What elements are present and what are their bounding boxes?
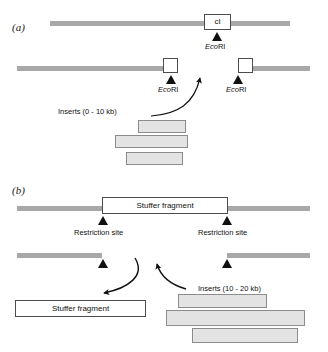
panel-b-insert-arrow bbox=[157, 264, 186, 289]
panel-b-stuffer-arrow bbox=[104, 258, 138, 293]
ecori-caret-3 bbox=[233, 75, 243, 84]
ecori-label-3: EcoRI bbox=[226, 86, 246, 94]
stuffer-fragment-label-bottom: Stuffer fragment bbox=[52, 305, 109, 313]
cut-end-box-right bbox=[238, 58, 253, 73]
ecori-caret-2 bbox=[166, 75, 176, 84]
panel-b-inserts-label: Inserts (10 - 20 kb) bbox=[198, 285, 261, 293]
restriction-site-caret-1 bbox=[98, 216, 108, 225]
panel-b-insert-1 bbox=[178, 294, 267, 308]
ecori-prefix-1: Eco bbox=[205, 42, 218, 51]
panel-b-insert-3 bbox=[192, 328, 298, 343]
panel-a-cut-arm-right bbox=[253, 66, 310, 71]
ci-gene-label: cI bbox=[214, 18, 220, 26]
stuffer-fragment-box-bottom: Stuffer fragment bbox=[15, 300, 146, 317]
panel-b-insert-2 bbox=[166, 310, 305, 326]
ecori-suffix-1: RI bbox=[218, 42, 226, 51]
ecori-prefix-2: Eco bbox=[158, 85, 171, 94]
panel-a-backbone-left bbox=[50, 21, 207, 26]
restriction-site-label-1: Restriction site bbox=[74, 229, 123, 237]
panel-a-inserts-label: Inserts (0 - 10 kb) bbox=[58, 108, 117, 116]
restriction-site-label-2: Restriction site bbox=[198, 229, 247, 237]
panel-a-insert-1 bbox=[138, 120, 186, 133]
stuffer-fragment-box-top: Stuffer fragment bbox=[102, 197, 228, 214]
ecori-prefix-3: Eco bbox=[226, 85, 239, 94]
cut-end-box-left bbox=[163, 58, 178, 73]
panel-b-caret-left bbox=[98, 259, 108, 268]
panel-a-insert-2 bbox=[115, 135, 188, 148]
panel-a-backbone-right bbox=[228, 21, 290, 26]
panel-b-backbone-right bbox=[227, 206, 310, 211]
panel-a-cut-arm-left bbox=[17, 66, 163, 71]
ecori-suffix-2: RI bbox=[171, 85, 179, 94]
ecori-label-1: EcoRI bbox=[205, 43, 225, 51]
stuffer-fragment-label-top: Stuffer fragment bbox=[136, 202, 193, 210]
panel-b-label: (b) bbox=[12, 185, 25, 196]
panel-b-cut-arm-left bbox=[17, 253, 102, 258]
panel-a-label: (a) bbox=[12, 22, 25, 33]
ci-gene-box: cI bbox=[204, 14, 231, 30]
panel-a-insert-3 bbox=[126, 152, 183, 165]
panel-b-caret-right bbox=[222, 259, 232, 268]
panel-b-backbone-left bbox=[17, 206, 102, 211]
panel-b-cut-arm-right bbox=[227, 253, 310, 258]
restriction-site-caret-2 bbox=[222, 216, 232, 225]
ecori-caret-1 bbox=[212, 32, 222, 41]
ecori-suffix-3: RI bbox=[239, 85, 247, 94]
ecori-label-2: EcoRI bbox=[158, 86, 178, 94]
figure-lambda-vector-cloning: (a) cI EcoRI EcoRI EcoRI Inserts (0 - 10… bbox=[0, 0, 328, 352]
